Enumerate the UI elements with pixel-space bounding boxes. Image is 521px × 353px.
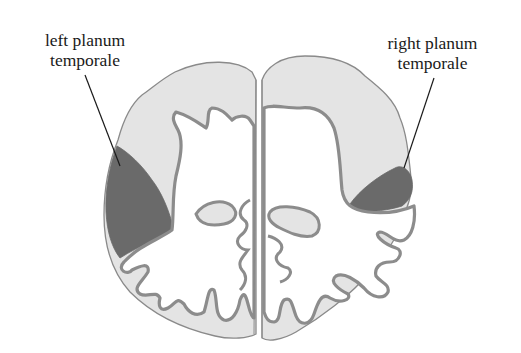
- left-hemisphere: [104, 62, 256, 338]
- left-label-line2: temporale: [30, 50, 140, 70]
- right-hemisphere: [262, 56, 415, 340]
- right-planum-label: right planum temporale: [375, 33, 490, 73]
- left-leader-line: [85, 75, 120, 166]
- right-label-line1: right planum: [375, 33, 490, 53]
- left-label-line1: left planum: [30, 30, 140, 50]
- right-leader-line: [404, 78, 434, 168]
- right-label-line2: temporale: [375, 53, 490, 73]
- left-planum-label: left planum temporale: [30, 30, 140, 70]
